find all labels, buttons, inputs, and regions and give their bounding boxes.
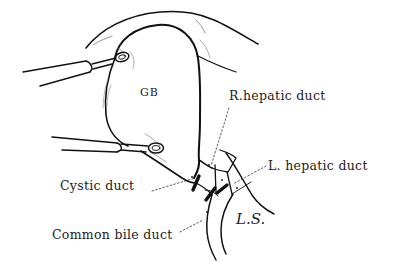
leader-right-hepatic (211, 108, 229, 166)
upper-clamp (23, 51, 130, 86)
label-cystic-duct: Cystic duct (60, 180, 134, 193)
label-right-hepatic-duct: R.hepatic duct (229, 90, 326, 103)
gallbladder-outline (103, 25, 236, 183)
leader-cystic (152, 178, 195, 191)
artist-signature: L.S. (236, 212, 265, 227)
leader-common-bile (180, 220, 203, 232)
liver-edge (86, 11, 258, 48)
bile-ducts (191, 150, 274, 260)
label-common-bile-duct: Common bile duct (52, 229, 173, 242)
lower-clamp (52, 137, 164, 153)
label-left-hepatic-duct: L. hepatic duct (268, 160, 368, 173)
diagram-canvas: GB R.hepatic duct L. hepatic duct Cystic… (0, 0, 412, 266)
leader-left-hepatic (233, 166, 266, 184)
label-gallbladder: GB (140, 87, 159, 98)
